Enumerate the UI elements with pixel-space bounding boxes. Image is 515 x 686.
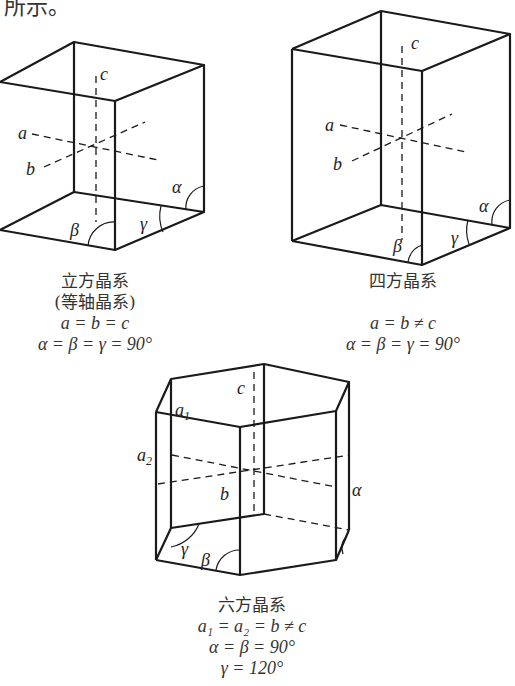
label-beta: β [69, 220, 79, 240]
label-c: c [100, 64, 108, 84]
label-beta: β [392, 236, 402, 256]
beta-arc [408, 245, 422, 262]
label-gamma: γ [181, 539, 189, 559]
cubic-alt-name: (等轴晶系) [15, 292, 175, 313]
b-axis [44, 122, 145, 167]
a-axis [32, 134, 158, 160]
cubic-cell: c a b β γ α [0, 42, 204, 250]
tetragonal-axes-relation: a = b ≠ c [323, 313, 483, 334]
label-a: a [18, 123, 27, 143]
label-c: c [411, 33, 419, 53]
cubic-angles-relation: α = β = γ = 90° [15, 334, 175, 355]
beta-arc [88, 222, 115, 246]
gamma-arc [160, 206, 163, 232]
label-b: b [26, 159, 35, 179]
a-axis [340, 125, 466, 152]
hexagonal-caption: 六方晶系 a₁ = a₂ = b ≠ c α = β = 90° γ = 120… [172, 595, 332, 679]
label-gamma: γ [140, 214, 148, 234]
tetragonal-name: 四方晶系 [323, 271, 483, 292]
label-alpha: α [479, 196, 489, 216]
alpha-arc [492, 200, 510, 224]
label-a: a [325, 115, 334, 135]
cubic-axes-relation: a = b = c [15, 313, 175, 334]
tetragonal-caption: 四方晶系 a = b ≠ c α = β = γ = 90° [323, 271, 483, 355]
hexagonal-cell: c a1 a2 b α γ β [137, 364, 362, 575]
cubic-caption: 立方晶系 (等轴晶系) a = b = c α = β = γ = 90° [15, 271, 175, 355]
beta-arc [216, 550, 240, 570]
label-beta: β [200, 550, 210, 570]
alpha-arc [186, 186, 204, 210]
label-c: c [237, 378, 245, 398]
hexagonal-angles-relation-2: γ = 120° [172, 658, 332, 679]
hexagonal-axes-relation: a₁ = a₂ = b ≠ c [172, 616, 332, 637]
label-alpha: α [172, 177, 182, 197]
label-a2: a2 [137, 445, 152, 468]
label-b: b [333, 154, 342, 174]
gamma-arc [467, 220, 469, 244]
hexagonal-angles-relation-1: α = β = 90° [172, 637, 332, 658]
cubic-name: 立方晶系 [15, 271, 175, 292]
label-alpha: α [352, 480, 362, 500]
label-a1: a1 [175, 400, 190, 423]
label-b: b [220, 484, 229, 504]
hexagonal-name: 六方晶系 [172, 595, 332, 616]
tetragonal-angles-relation: α = β = γ = 90° [323, 334, 483, 355]
tetragonal-cell: c a b β γ α [292, 11, 510, 265]
label-gamma: γ [451, 228, 459, 248]
